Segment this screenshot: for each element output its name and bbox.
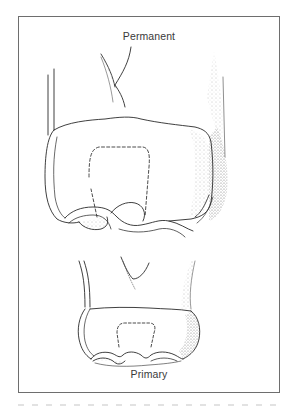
primary-tooth xyxy=(78,257,199,366)
permanent-tooth xyxy=(45,47,228,237)
caption-cropped xyxy=(18,398,280,407)
tooth-illustration xyxy=(19,17,281,394)
figure-frame: Permanent Primary xyxy=(18,16,280,393)
